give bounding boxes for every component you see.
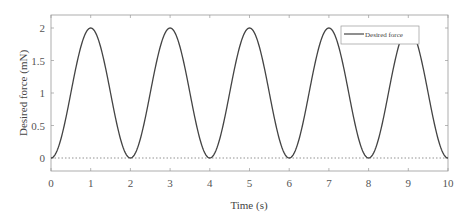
x-tick-labels: 012345678910 bbox=[48, 177, 454, 189]
desired-force-series bbox=[51, 28, 448, 158]
x-tick-label: 3 bbox=[167, 177, 173, 189]
line-chart: 012345678910 00.511.52 Desired force Tim… bbox=[0, 0, 472, 217]
y-tick-label: 0.5 bbox=[31, 120, 45, 132]
y-tick-label: 2 bbox=[40, 22, 46, 34]
y-tick-labels: 00.511.52 bbox=[31, 22, 45, 164]
x-tick-label: 6 bbox=[286, 177, 292, 189]
x-tick-label: 1 bbox=[88, 177, 94, 189]
y-tick-label: 0 bbox=[40, 152, 46, 164]
x-tick-label: 10 bbox=[443, 177, 455, 189]
x-tick-label: 2 bbox=[128, 177, 134, 189]
x-axis-label: Time (s) bbox=[230, 199, 268, 212]
x-tick-label: 5 bbox=[247, 177, 253, 189]
y-tick-label: 1 bbox=[40, 87, 46, 99]
legend: Desired force bbox=[341, 26, 419, 44]
x-tick-label: 4 bbox=[207, 177, 213, 189]
y-tick-label: 1.5 bbox=[31, 55, 45, 67]
y-axis-label: Desired force (mN) bbox=[17, 50, 30, 136]
legend-label: Desired force bbox=[365, 31, 403, 39]
x-tick-label: 9 bbox=[406, 177, 412, 189]
x-tick-label: 0 bbox=[48, 177, 54, 189]
x-tick-label: 7 bbox=[326, 177, 332, 189]
x-tick-label: 8 bbox=[366, 177, 372, 189]
